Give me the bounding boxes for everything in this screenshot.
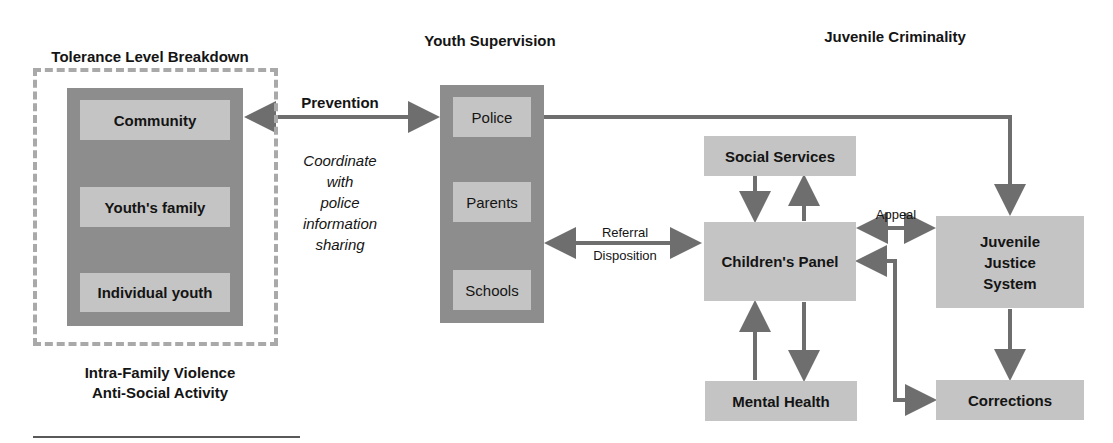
referral-label: Referral xyxy=(575,225,675,240)
tolerance-title: Tolerance Level Breakdown xyxy=(33,48,267,65)
coordinate-note-line: with xyxy=(290,171,390,192)
criminality-title: Juvenile Criminality xyxy=(810,28,980,45)
supervision-title: Youth Supervision xyxy=(410,32,570,49)
juvenile-justice-box: Juvenile Justice System xyxy=(936,216,1084,308)
coordinate-note-line: Coordinate xyxy=(290,150,390,171)
mental-health-box: Mental Health xyxy=(705,381,857,421)
coordinate-note-line: information xyxy=(290,213,390,234)
social-services-box: Social Services xyxy=(704,136,856,176)
supervision-police: Police xyxy=(453,97,531,137)
juvenile-justice-line: Juvenile xyxy=(980,231,1040,252)
coordinate-note-line: police xyxy=(290,192,390,213)
tolerance-caption-line2: Anti-Social Activity xyxy=(40,384,280,401)
tolerance-caption-line1: Intra-Family Violence xyxy=(40,364,280,381)
juvenile-justice-line: Justice xyxy=(984,252,1036,273)
arrow-panel-corrections xyxy=(863,261,929,400)
level-community: Community xyxy=(80,100,230,140)
disposition-label: Disposition xyxy=(575,248,675,263)
supervision-parents: Parents xyxy=(453,182,531,222)
level-individual-youth: Individual youth xyxy=(80,273,230,312)
appeal-label: Appeal xyxy=(866,207,926,222)
prevention-label: Prevention xyxy=(290,94,390,111)
supervision-schools: Schools xyxy=(453,270,531,310)
corrections-box: Corrections xyxy=(936,380,1084,420)
coordinate-note: Coordinate with police information shari… xyxy=(290,150,390,255)
juvenile-justice-line: System xyxy=(983,273,1036,294)
childrens-panel-box: Children's Panel xyxy=(704,222,856,301)
level-youths-family: Youth's family xyxy=(80,187,230,227)
coordinate-note-line: sharing xyxy=(290,234,390,255)
